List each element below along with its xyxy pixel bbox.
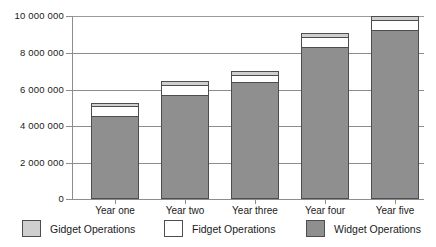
x-tick-mark-year-three [255,199,256,204]
x-tick-mark-year-five [395,199,396,204]
y-axis-labels: 10 000 000 8 000 000 6 000 000 4 000 000… [0,0,64,247]
x-tick-mark-year-one [115,199,116,204]
legend-item-gidget[interactable]: Gidget Operations [22,220,135,237]
x-axis-label-year-two: Year two [145,205,225,216]
bar-segment-fidget-year-three[interactable] [231,76,279,83]
x-axis-label-year-five: Year five [355,205,435,216]
bar-segment-widget-year-four[interactable] [301,48,349,199]
bar-segment-fidget-year-five[interactable] [371,21,419,31]
bar-segment-fidget-year-one[interactable] [91,107,139,117]
x-tick-mark-year-four [325,199,326,204]
y-tick-label-4000000: 4 000 000 [0,120,64,131]
y-tick-label-0: 0 [0,193,64,204]
bar-group-year-five[interactable] [371,16,419,199]
legend-label-gidget: Gidget Operations [50,223,135,235]
bar-segment-fidget-year-four[interactable] [301,38,349,48]
legend-item-widget[interactable]: Widget Operations [306,220,421,237]
bar-segment-widget-year-two[interactable] [161,96,209,199]
bar-segment-widget-year-five[interactable] [371,31,419,199]
bar-group-year-four[interactable] [301,33,349,199]
bar-group-year-one[interactable] [91,103,139,199]
legend-item-fidget[interactable]: Fidget Operations [164,220,275,237]
x-axis-label-year-one: Year one [75,205,155,216]
chart-root: 10 000 000 8 000 000 6 000 000 4 000 000… [0,0,436,247]
y-tick-label-2000000: 2 000 000 [0,157,64,168]
bar-segment-fidget-year-two[interactable] [161,86,209,96]
x-axis-label-year-three: Year three [215,205,295,216]
bar-segment-widget-year-one[interactable] [91,117,139,199]
legend-swatch-widget-icon [306,220,325,237]
chart-legend: Gidget Operations Fidget Operations Widg… [0,220,436,244]
legend-swatch-gidget-icon [22,220,41,237]
bar-series-container [72,16,424,199]
y-tick-label-8000000: 8 000 000 [0,47,64,58]
legend-label-widget: Widget Operations [334,223,421,235]
y-tick-label-6000000: 6 000 000 [0,84,64,95]
bar-group-year-two[interactable] [161,81,209,199]
x-tick-mark-year-two [185,199,186,204]
x-axis-line [72,199,424,200]
legend-label-fidget: Fidget Operations [192,223,275,235]
y-tick-label-10000000: 10 000 000 [0,10,64,21]
x-axis-label-year-four: Year four [285,205,365,216]
legend-swatch-fidget-icon [164,220,183,237]
bar-segment-widget-year-three[interactable] [231,83,279,199]
bar-group-year-three[interactable] [231,71,279,199]
